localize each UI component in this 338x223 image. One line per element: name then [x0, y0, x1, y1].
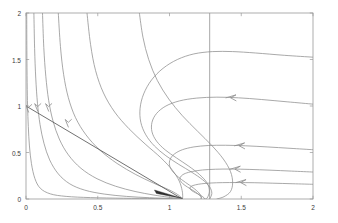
y-tick-label: 0 — [0, 196, 21, 203]
x-tick-label: 1.5 — [237, 204, 246, 211]
y-tick-label: 1 — [0, 103, 21, 110]
y-tick-label: 2 — [0, 10, 21, 17]
phase-portrait-figure: 00.511.52 00.511.52 — [0, 0, 338, 223]
x-tick-label: 1 — [168, 204, 172, 211]
x-tick-label: 2 — [311, 204, 315, 211]
plot-canvas — [0, 0, 338, 223]
y-tick-label: 0.5 — [0, 149, 21, 156]
plot-background — [26, 13, 313, 199]
y-tick-label: 1.5 — [0, 56, 21, 63]
x-tick-label: 0.5 — [93, 204, 102, 211]
x-tick-label: 0 — [24, 204, 28, 211]
